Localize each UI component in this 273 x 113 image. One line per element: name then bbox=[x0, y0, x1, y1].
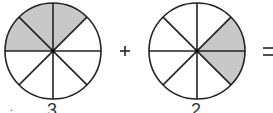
dot-mark: . bbox=[10, 103, 13, 113]
shaded-sector bbox=[53, 3, 87, 51]
equals-operator bbox=[263, 48, 273, 55]
shaded-sector bbox=[197, 17, 245, 51]
fraction-circle-2 bbox=[149, 3, 245, 99]
numerator-label-2: 2 bbox=[191, 101, 201, 113]
fraction-diagram bbox=[0, 0, 273, 113]
numerator-label-1: 3 bbox=[47, 101, 57, 113]
plus-operator bbox=[120, 46, 130, 56]
shaded-sector bbox=[197, 51, 245, 85]
fraction-circle-1 bbox=[5, 3, 101, 99]
